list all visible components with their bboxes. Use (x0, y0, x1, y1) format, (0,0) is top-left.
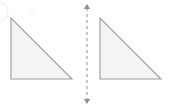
axis-arrow-bottom-icon (84, 99, 90, 104)
scan-smudge-artifact (27, 8, 35, 16)
diagram-canvas (0, 0, 169, 108)
axis-arrow-top-icon (84, 4, 90, 9)
geometry-diagram (0, 0, 169, 108)
right-triangle-shape[interactable] (100, 18, 161, 79)
left-triangle-shape[interactable] (11, 18, 72, 79)
corner-arc-icon (0, 3, 8, 21)
